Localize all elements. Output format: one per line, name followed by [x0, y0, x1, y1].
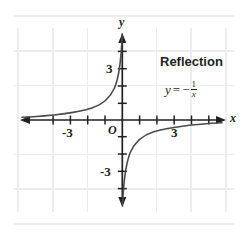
y-axis-label: y [119, 16, 124, 28]
x-tick-label-positive: 3 [171, 126, 178, 139]
coordinate-plane [0, 0, 249, 233]
equation-lhs: y [165, 83, 171, 96]
equation-fraction: 1 x [190, 80, 197, 100]
equation-denominator: x [191, 89, 197, 99]
graph-figure: y x O 3 -3 -3 3 Reflection y = − 1 x [0, 0, 249, 233]
annotation-title: Reflection [160, 55, 223, 68]
origin-label: O [108, 124, 117, 136]
equation-operator: = [173, 83, 180, 96]
x-axis-label: x [230, 112, 236, 124]
x-tick-label-negative: -3 [62, 126, 73, 139]
y-tick-label-negative: -3 [100, 165, 111, 178]
annotation-equation: y = − 1 x [165, 80, 197, 100]
equation-sign: − [182, 83, 189, 96]
y-tick-label-positive: 3 [106, 62, 113, 75]
equation-numerator: 1 [190, 80, 197, 89]
